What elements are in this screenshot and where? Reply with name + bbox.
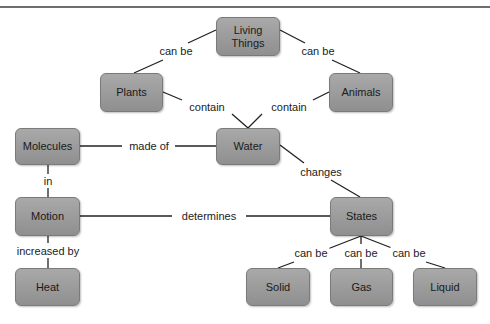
- link-label-states-gas: can be: [342, 247, 379, 259]
- link-label-water-states: changes: [298, 166, 344, 178]
- node-water: Water: [216, 128, 280, 165]
- link-label-motion-states: determines: [180, 210, 238, 222]
- node-motion: Motion: [15, 197, 80, 236]
- node-label: Gas: [351, 281, 371, 294]
- node-molecules: Molecules: [15, 128, 80, 165]
- node-liquid: Liquid: [413, 268, 477, 306]
- node-states: States: [330, 197, 393, 236]
- link-label-molecules-motion: in: [42, 175, 55, 187]
- node-label: Solid: [266, 281, 290, 294]
- link-label-states-liquid: can be: [390, 247, 427, 259]
- node-label: Water: [234, 140, 263, 153]
- link-label-living-plants: can be: [157, 45, 194, 57]
- link-label-animals-water: contain: [269, 101, 308, 113]
- node-label: Motion: [31, 210, 64, 223]
- node-heat: Heat: [15, 268, 80, 306]
- node-label: Liquid: [430, 281, 459, 294]
- link-label-living-animals: can be: [299, 45, 336, 57]
- link-label-molecules-water: made of: [127, 140, 171, 152]
- node-animals: Animals: [329, 73, 393, 112]
- edge-living-plants: [188, 30, 216, 43]
- node-plants: Plants: [100, 73, 163, 112]
- node-label: Animals: [341, 86, 380, 99]
- node-label: States: [346, 210, 377, 223]
- node-label: Living Things: [228, 24, 268, 50]
- node-living-things: Living Things: [216, 17, 280, 56]
- link-label-plants-water: contain: [187, 101, 226, 113]
- node-label: Heat: [36, 281, 59, 294]
- node-label: Plants: [116, 86, 147, 99]
- node-solid: Solid: [246, 268, 310, 306]
- link-label-states-solid: can be: [292, 247, 329, 259]
- node-label: Molecules: [23, 140, 73, 153]
- link-label-motion-heat: increased by: [15, 245, 81, 257]
- node-gas: Gas: [330, 268, 393, 306]
